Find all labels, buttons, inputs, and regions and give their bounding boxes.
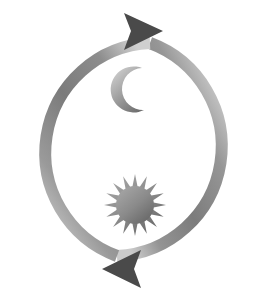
- day-night-cycle-diagram: Day and night cycle A circular clockwise…: [0, 0, 275, 304]
- sun-icon: [104, 174, 166, 236]
- cycle-diagram-canvas: [0, 0, 275, 304]
- moon-icon: [111, 66, 144, 112]
